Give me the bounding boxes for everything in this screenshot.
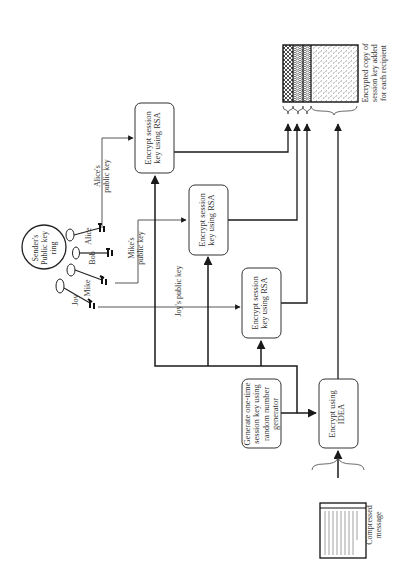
encrypted-output-bar: [283, 45, 358, 115]
alice-public-key-label: Alice's public key: [94, 156, 114, 196]
generate-key-box-label: Generate one-time session key using rand…: [243, 381, 279, 447]
mike-public-key-label: Mike's public key: [128, 228, 148, 268]
key-ring-label: Sender's Public key ring: [32, 218, 56, 278]
compressed-message-doc: [312, 458, 366, 558]
rsa-box-joy-label: Encrypt session key using RSA: [251, 270, 271, 336]
recipient-label-bob: Bob: [89, 248, 99, 268]
rsa-box-mike-label: Encrypt session key using RSA: [198, 187, 218, 253]
recipient-label-alice: Alice: [85, 224, 95, 248]
recipient-label-mike: Mike: [84, 277, 94, 299]
output-caption: Encrypted copy of session key added for …: [362, 36, 392, 110]
recipient-label-joy: Joy: [72, 291, 82, 309]
joy-public-key-label: Joy's public key: [175, 261, 185, 321]
rsa-box-alice-label: Encrypt session key using RSA: [144, 105, 164, 171]
pgp-multi-recipient-diagram: [0, 0, 410, 588]
idea-box-label: Encrypt using IDEA: [328, 381, 348, 447]
compressed-message-caption: Compressed message: [366, 500, 388, 550]
